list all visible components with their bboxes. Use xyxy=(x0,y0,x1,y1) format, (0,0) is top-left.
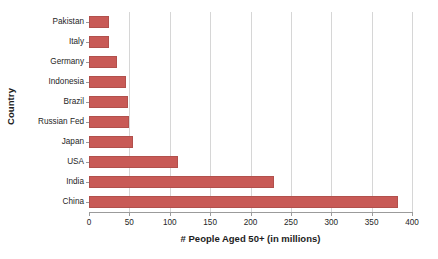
y-axis-tick-mark xyxy=(86,102,89,103)
y-axis-tick-mark xyxy=(86,82,89,83)
y-axis-tick-label: USA xyxy=(67,152,84,172)
x-axis-tick-label: 350 xyxy=(365,218,379,227)
bar-row[interactable] xyxy=(89,72,412,92)
bar-row[interactable] xyxy=(89,112,412,132)
y-axis-tick-label: Germany xyxy=(50,52,84,72)
x-axis-tick-labels: 050100150200250300350400 xyxy=(89,218,412,231)
x-axis-tick-label: 50 xyxy=(125,218,134,227)
bar[interactable] xyxy=(89,36,109,48)
y-axis-tick-mark xyxy=(86,142,89,143)
x-axis-tick-mark xyxy=(412,212,413,216)
x-axis-tick-mark xyxy=(89,212,90,216)
bar[interactable] xyxy=(89,136,133,148)
x-axis-tick-label: 100 xyxy=(163,218,177,227)
y-axis-tick-mark xyxy=(86,122,89,123)
bar[interactable] xyxy=(89,56,117,68)
y-axis-tick-label: India xyxy=(66,172,84,192)
x-axis-tick-mark xyxy=(372,212,373,216)
x-axis-title: # People Aged 50+ (in millions) xyxy=(89,233,412,244)
y-axis-tick-label: Japan xyxy=(62,132,84,152)
x-axis-tick-label: 0 xyxy=(87,218,92,227)
bar-row[interactable] xyxy=(89,132,412,152)
x-axis-tick-label: 200 xyxy=(244,218,258,227)
plot-area xyxy=(89,12,412,212)
x-axis-tick-label: 250 xyxy=(284,218,298,227)
bar[interactable] xyxy=(89,196,398,208)
x-axis-tick-mark xyxy=(210,212,211,216)
x-axis-tick-mark xyxy=(129,212,130,216)
x-axis-tick-mark xyxy=(331,212,332,216)
y-axis-tick-mark xyxy=(86,202,89,203)
y-axis-tick-mark xyxy=(86,162,89,163)
y-axis-title: Country xyxy=(0,0,22,212)
bar-chart-figure: Country PakistanItalyGermanyIndonesiaBra… xyxy=(0,0,438,259)
bar[interactable] xyxy=(89,176,274,188)
x-axis-tick-label: 300 xyxy=(324,218,338,227)
bar[interactable] xyxy=(89,156,178,168)
y-axis-tick-label: China xyxy=(63,192,84,212)
y-axis-tick-label: Russian Fed xyxy=(38,112,84,132)
bar[interactable] xyxy=(89,16,109,28)
bar-row[interactable] xyxy=(89,192,412,212)
gridline-vertical xyxy=(412,12,413,212)
x-axis-tick-mark xyxy=(170,212,171,216)
y-axis-tick-mark xyxy=(86,42,89,43)
bar[interactable] xyxy=(89,116,129,128)
y-axis-tick-mark xyxy=(86,62,89,63)
y-axis-tick-label: Brazil xyxy=(64,92,84,112)
x-axis-tick-mark xyxy=(291,212,292,216)
bar-row[interactable] xyxy=(89,12,412,32)
y-axis-tick-labels: PakistanItalyGermanyIndonesiaBrazilRussi… xyxy=(20,12,87,212)
x-axis-tick-label: 400 xyxy=(405,218,419,227)
x-axis-tick-mark xyxy=(251,212,252,216)
x-axis-tick-label: 150 xyxy=(203,218,217,227)
y-axis-title-text: Country xyxy=(6,87,17,124)
y-axis-tick-mark xyxy=(86,182,89,183)
bar[interactable] xyxy=(89,96,128,108)
bar-row[interactable] xyxy=(89,52,412,72)
bar-row[interactable] xyxy=(89,152,412,172)
bar-row[interactable] xyxy=(89,92,412,112)
y-axis-tick-label: Indonesia xyxy=(48,72,84,92)
bar-row[interactable] xyxy=(89,32,412,52)
bar[interactable] xyxy=(89,76,126,88)
y-axis-tick-mark xyxy=(86,22,89,23)
bar-row[interactable] xyxy=(89,172,412,192)
y-axis-tick-label: Italy xyxy=(69,32,84,52)
y-axis-tick-label: Pakistan xyxy=(53,12,84,32)
